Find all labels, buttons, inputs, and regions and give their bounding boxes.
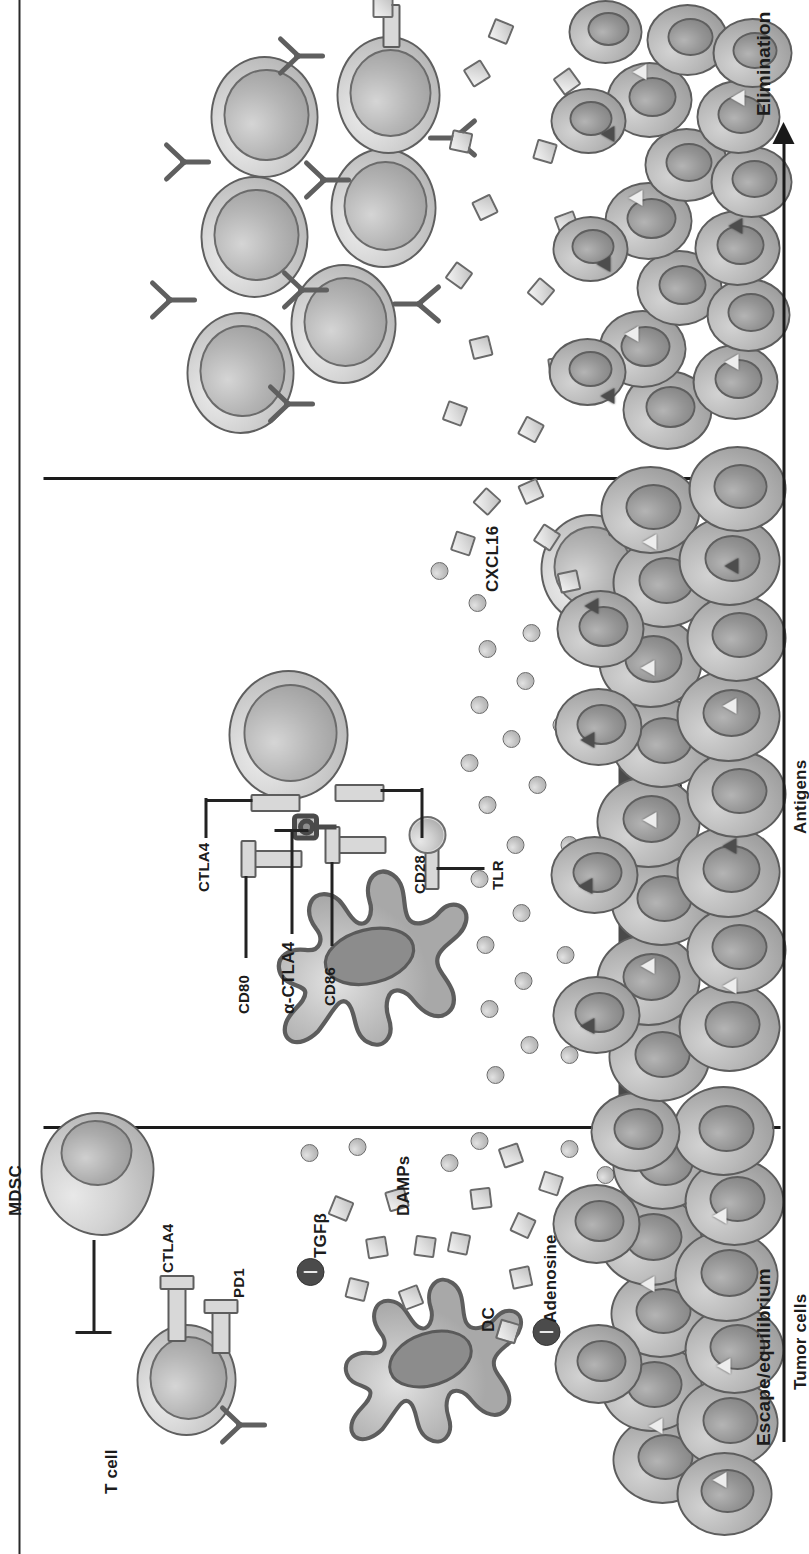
damp-particle (470, 696, 488, 714)
figure-canvas: Radiation T cell PD1 CTLA4 (0, 0, 809, 1554)
mdsc-nucleus (60, 1120, 132, 1186)
rotated-figure-content: Radiation T cell PD1 CTLA4 (0, 0, 809, 1554)
damp-particle (516, 672, 534, 690)
damp-particle (470, 870, 488, 888)
released-antigen-particle (462, 59, 491, 88)
anti-ctla4-block-tee (274, 829, 308, 832)
tgfb-particle (413, 1235, 437, 1259)
t-cell-radiation-synapse (228, 670, 348, 800)
released-antigen-particle (444, 261, 473, 290)
damp-particle (522, 624, 540, 642)
released-antigen-particle (526, 277, 556, 307)
cd80-leader-line (244, 876, 247, 958)
bound-antigen-particle (372, 0, 393, 18)
anti-ctla4-antibody-icon (286, 796, 346, 860)
cxcl16-label: CXCL16 (482, 526, 502, 592)
damp-particle (520, 1036, 538, 1054)
tcr-receptor-icon (264, 378, 320, 430)
adenosine-particle (508, 1265, 533, 1290)
cd86-label: CD86 (320, 967, 337, 1006)
released-antigen-particle (448, 129, 473, 154)
mdsc-inhibition-line (92, 1240, 95, 1332)
adenosine-particle (497, 1142, 524, 1169)
antigens-label: Antigens (790, 760, 809, 834)
outcome-arrow-head (772, 122, 794, 144)
ctla4-label-escape: CTLA4 (158, 1224, 175, 1273)
cxcl16-particle (472, 487, 502, 517)
damp-particle (478, 640, 496, 658)
tcr-receptor-icon (300, 154, 356, 206)
damp-particle (300, 1144, 318, 1162)
adenosine-label: Adenosine (540, 1234, 560, 1323)
cxcl16-particle (449, 530, 475, 556)
damp-particle (348, 1138, 366, 1156)
tcr-receptor-icon (274, 30, 330, 82)
adenosine-particle (446, 1231, 471, 1256)
tcr-receptor-icon (160, 136, 216, 188)
cd86-leader-line (330, 862, 333, 946)
damp-particle (596, 1166, 614, 1184)
anti-ctla4-leader-line (290, 830, 293, 934)
escape-equilibrium-outcome-label: Escape/equilibrium (752, 1268, 774, 1446)
anti-ctla4-label: α-CTLA4 (278, 942, 298, 1014)
tlr-receptor-head (408, 816, 446, 854)
cxcl16-particle (517, 478, 545, 506)
t-cell-nucleus (243, 684, 337, 781)
tcr-receptor-icon (146, 274, 202, 326)
cd80-label: CD80 (234, 975, 251, 1014)
tgfb-particle (364, 1235, 388, 1259)
released-antigen-particle (468, 335, 493, 360)
pd1-receptor-stem (203, 1299, 238, 1314)
dc-label-escape: DC (478, 1307, 498, 1332)
elimination-outcome-label: Elimination (752, 11, 774, 116)
tumor-cells-label: Tumor cells (790, 1294, 809, 1390)
released-antigen-particle (470, 193, 498, 221)
released-antigen-particle (441, 400, 468, 427)
outcome-arrow-shaft (782, 142, 785, 1442)
ctla4-receptor-stem (159, 1275, 194, 1290)
damp-particle (460, 754, 478, 772)
damp-particle (512, 904, 530, 922)
mdsc-cell (40, 1112, 154, 1236)
damp-particle (506, 836, 524, 854)
adenosine-particle (537, 1170, 563, 1196)
released-antigen-particle (532, 139, 558, 165)
ctla4-leader-line-h (204, 798, 207, 838)
mdsc-inhibition-tee (75, 1331, 111, 1334)
damp-particle (486, 1066, 504, 1084)
t-cell-label: T cell (101, 1449, 121, 1494)
released-antigen-particle (516, 415, 544, 443)
tgfb-label: TGFβ (310, 1213, 330, 1258)
damp-particle (528, 776, 546, 794)
ctla4-leader-line (206, 799, 252, 802)
mdsc-label: MDSC (5, 1165, 25, 1216)
damp-particle (476, 936, 494, 954)
cd80-receptor-cap (240, 840, 256, 878)
adenosine-particle (509, 1212, 537, 1240)
damp-particle (470, 1132, 488, 1150)
tcr-receptor-icon (216, 1400, 272, 1450)
adenosine-particle (469, 1187, 492, 1210)
pd1-label: PD1 (229, 1268, 246, 1298)
cxcl16-particle (556, 569, 581, 594)
tcr-receptor-icon (388, 278, 444, 330)
damp-particle (480, 1000, 498, 1018)
damp-particle (514, 972, 532, 990)
damp-particle (560, 1140, 578, 1158)
ctla4-label-radiation: CTLA4 (194, 843, 211, 892)
tlr-label: TLR (488, 860, 505, 890)
figure-border-top (18, 0, 20, 1554)
released-antigen-particle (487, 18, 514, 45)
damp-particle (430, 562, 448, 580)
damp-particle (478, 796, 496, 814)
cd28-label: CD28 (410, 855, 427, 894)
damp-particle (556, 946, 574, 964)
cd28-leader-line-h (420, 788, 423, 838)
damp-particle (502, 730, 520, 748)
damp-particle (468, 594, 486, 612)
tcr-receptor-icon (278, 264, 334, 316)
damps-label: DAMPs (393, 1155, 413, 1216)
inhibitory-molecule (296, 1258, 324, 1286)
cd28-leader-line (380, 789, 422, 792)
damp-particle (440, 1154, 458, 1172)
